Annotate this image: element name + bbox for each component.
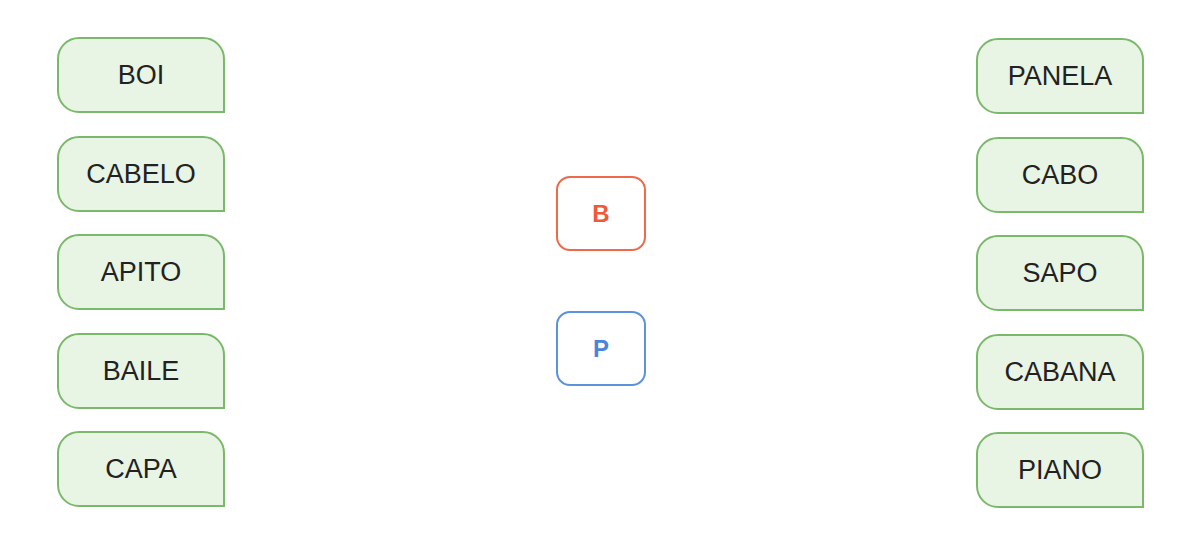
letter-label: B (592, 200, 609, 228)
word-card-sapo[interactable]: SAPO (976, 235, 1144, 311)
word-label: CABELO (86, 159, 196, 190)
letter-box-b[interactable]: B (556, 176, 646, 251)
word-label: CABANA (1004, 357, 1115, 388)
word-card-cabana[interactable]: CABANA (976, 334, 1144, 410)
word-label: PANELA (1008, 61, 1113, 92)
word-card-baile[interactable]: BAILE (57, 333, 225, 409)
word-label: BAILE (103, 356, 180, 387)
word-label: CAPA (105, 454, 177, 485)
letter-label: P (593, 335, 609, 363)
word-label: APITO (101, 257, 182, 288)
word-card-cabelo[interactable]: CABELO (57, 136, 225, 212)
word-card-cabo[interactable]: CABO (976, 137, 1144, 213)
word-label: CABO (1022, 160, 1099, 191)
word-label: PIANO (1018, 455, 1102, 486)
word-card-apito[interactable]: APITO (57, 234, 225, 310)
word-label: SAPO (1022, 258, 1097, 289)
word-card-boi[interactable]: BOI (57, 37, 225, 113)
word-card-panela[interactable]: PANELA (976, 38, 1144, 114)
word-label: BOI (118, 60, 165, 91)
letter-box-p[interactable]: P (556, 311, 646, 386)
word-card-piano[interactable]: PIANO (976, 432, 1144, 508)
word-card-capa[interactable]: CAPA (57, 431, 225, 507)
